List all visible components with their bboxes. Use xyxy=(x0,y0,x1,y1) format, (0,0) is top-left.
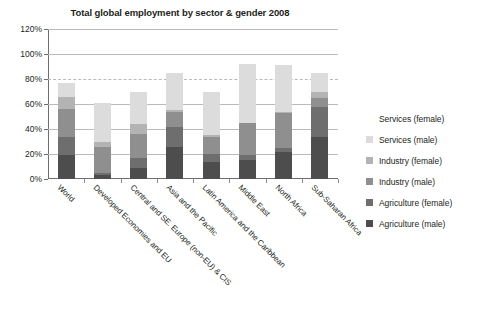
legend-label: Services (male) xyxy=(379,135,437,145)
legend-item[interactable]: Services (female) xyxy=(366,108,452,129)
legend-item[interactable]: Agriculture (female) xyxy=(366,192,452,213)
bar-segment[interactable] xyxy=(311,73,328,92)
bar-stack[interactable] xyxy=(203,29,220,179)
bar-stack[interactable] xyxy=(166,29,183,179)
y-tick-mark xyxy=(44,54,48,55)
bar-segment[interactable] xyxy=(239,123,256,156)
legend-item[interactable]: Industry (female) xyxy=(366,150,452,171)
bar-segment[interactable] xyxy=(130,92,147,125)
y-tick-label: 60% xyxy=(25,99,42,109)
plot-area: 0%20%40%60%80%100%120% xyxy=(48,29,338,179)
bar-segment[interactable] xyxy=(203,154,220,162)
bar-segment[interactable] xyxy=(275,65,292,111)
bar-segment[interactable] xyxy=(94,173,111,176)
legend-swatch xyxy=(366,199,373,206)
bar-segment[interactable] xyxy=(58,83,75,97)
bar-segment[interactable] xyxy=(166,127,183,147)
x-tick-mark xyxy=(302,179,303,183)
bar-segment[interactable] xyxy=(58,109,75,137)
bar-segment[interactable] xyxy=(130,134,147,158)
legend-label: Agriculture (male) xyxy=(379,219,445,229)
x-axis-label: Middle East xyxy=(237,183,272,218)
x-tick-mark xyxy=(157,179,158,183)
bar-segment[interactable] xyxy=(166,147,183,180)
bar-segment[interactable] xyxy=(94,175,111,179)
bar-segment[interactable] xyxy=(239,64,256,123)
bar-segment[interactable] xyxy=(94,142,111,147)
bar-stack[interactable] xyxy=(130,29,147,179)
bar-segment[interactable] xyxy=(203,162,220,180)
bar-segment[interactable] xyxy=(58,137,75,156)
y-tick-mark xyxy=(44,104,48,105)
bar-segment[interactable] xyxy=(130,168,147,179)
x-axis-label: World xyxy=(56,183,77,204)
bar-stack[interactable] xyxy=(94,29,111,179)
chart-title: Total global employment by sector & gend… xyxy=(0,7,360,18)
bar-segment[interactable] xyxy=(166,112,183,127)
legend-swatch xyxy=(366,220,373,227)
x-axis-label: Sub-Saharan Africa xyxy=(310,183,364,237)
bar-stack[interactable] xyxy=(239,29,256,179)
gridline xyxy=(48,54,338,55)
legend-swatch xyxy=(366,157,373,164)
bar-segment[interactable] xyxy=(94,103,111,142)
bar-segment[interactable] xyxy=(58,97,75,110)
bar-segment[interactable] xyxy=(275,148,292,152)
bar-segment[interactable] xyxy=(311,107,328,137)
x-axis-label: North Africa xyxy=(273,183,308,218)
bar-stack[interactable] xyxy=(311,29,328,179)
bar-segment[interactable] xyxy=(311,92,328,98)
bar-segment[interactable] xyxy=(239,155,256,160)
y-tick-mark xyxy=(44,79,48,80)
y-tick-label: 120% xyxy=(20,24,42,34)
x-axis-label: Developed Economies and EU xyxy=(92,183,174,265)
x-tick-mark xyxy=(266,179,267,183)
legend-swatch xyxy=(366,136,373,143)
chart-container: Total global employment by sector & gend… xyxy=(0,0,485,323)
gridline xyxy=(48,104,338,105)
legend-swatch xyxy=(366,178,373,185)
bar-segment[interactable] xyxy=(166,73,183,111)
x-tick-mark xyxy=(193,179,194,183)
legend-label: Industry (female) xyxy=(379,156,442,166)
legend-swatch xyxy=(366,115,373,122)
bar-segment[interactable] xyxy=(130,158,147,168)
bar-segment[interactable] xyxy=(275,113,292,148)
legend-item[interactable]: Services (male) xyxy=(366,129,452,150)
y-tick-mark xyxy=(44,29,48,30)
y-tick-mark xyxy=(44,179,48,180)
gridline xyxy=(48,129,338,130)
gridline xyxy=(48,79,338,80)
bar-segment[interactable] xyxy=(275,152,292,180)
bar-segment[interactable] xyxy=(203,135,220,136)
legend-item[interactable]: Industry (male) xyxy=(366,171,452,192)
y-tick-label: 80% xyxy=(25,74,42,84)
bar-segment[interactable] xyxy=(311,137,328,180)
legend-label: Services (female) xyxy=(379,114,444,124)
bar-segment[interactable] xyxy=(239,160,256,179)
bar-segment[interactable] xyxy=(166,110,183,111)
bar-segment[interactable] xyxy=(58,155,75,179)
bar-segment[interactable] xyxy=(94,147,111,173)
legend-item[interactable]: Agriculture (male) xyxy=(366,213,452,234)
y-tick-label: 100% xyxy=(20,49,42,59)
y-tick-label: 0% xyxy=(30,174,42,184)
y-tick-label: 20% xyxy=(25,149,42,159)
gridline xyxy=(48,154,338,155)
bar-segment[interactable] xyxy=(203,92,220,136)
bar-segment[interactable] xyxy=(130,124,147,134)
bar-stack[interactable] xyxy=(275,29,292,179)
x-tick-mark xyxy=(229,179,230,183)
x-tick-mark xyxy=(338,179,339,183)
bar-stack[interactable] xyxy=(58,29,75,179)
bar-segment[interactable] xyxy=(203,137,220,155)
y-tick-mark xyxy=(44,129,48,130)
x-tick-mark xyxy=(121,179,122,183)
bar-segment[interactable] xyxy=(311,98,328,107)
x-tick-mark xyxy=(84,179,85,183)
legend-label: Agriculture (female) xyxy=(379,198,452,208)
y-tick-label: 40% xyxy=(25,124,42,134)
legend-label: Industry (male) xyxy=(379,177,435,187)
bar-segment[interactable] xyxy=(275,112,292,113)
y-tick-mark xyxy=(44,154,48,155)
